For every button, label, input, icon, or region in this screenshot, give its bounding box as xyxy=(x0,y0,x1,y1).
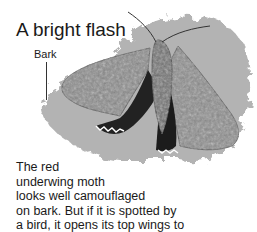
caption-line: on bark. But if it is spotted by xyxy=(16,204,193,219)
bark-leader-line xyxy=(46,62,47,100)
caption-line: The red xyxy=(16,160,193,175)
caption-line: a bird, it opens its top wings to xyxy=(16,218,193,232)
caption-line: looks well camouflaged xyxy=(16,189,193,204)
caption: The red underwing moth looks well camouf… xyxy=(16,160,193,232)
bark-label: Bark xyxy=(34,48,57,61)
page-title: A bright flash xyxy=(16,19,126,41)
caption-line: underwing moth xyxy=(16,175,193,190)
